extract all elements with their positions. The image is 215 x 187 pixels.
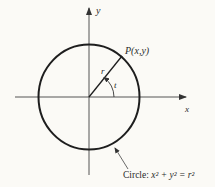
caption-equation: x² + y² = r² — [150, 170, 194, 180]
caption-pointer — [115, 148, 128, 169]
x-axis-label: x — [184, 104, 189, 114]
unit-circle-diagram: y x P(x,y) r t Circle: x² + y² = r² — [0, 0, 215, 187]
caption-prefix: Circle: — [123, 170, 151, 180]
angle-label: t — [114, 80, 117, 90]
circle-caption: Circle: x² + y² = r² — [123, 170, 194, 180]
radius-line — [89, 56, 122, 97]
point-label: P(x,y) — [124, 45, 150, 57]
y-axis-label: y — [95, 5, 101, 16]
radius-label: r — [101, 66, 105, 76]
angle-arc — [104, 78, 114, 98]
